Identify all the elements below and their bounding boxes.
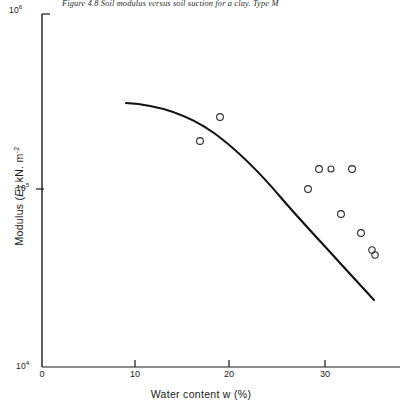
x-axis-title: Water content w (%) xyxy=(0,388,402,400)
x-axis-label-0: 0 xyxy=(32,369,52,379)
y-axis-label-1e6: 106 xyxy=(9,5,23,15)
data-point xyxy=(197,138,204,145)
x-axis-label-10: 10 xyxy=(125,369,145,379)
data-point xyxy=(316,166,323,173)
figure-root: Figure 4.8 Soil modulus versus soil suct… xyxy=(0,0,402,409)
x-axis-label-30: 30 xyxy=(315,369,335,379)
y-axis-label-1e4: 104 xyxy=(16,361,30,371)
data-point-group xyxy=(197,114,379,259)
data-point xyxy=(372,252,378,258)
y-axis-title: Modulus (E) kN. m-2 xyxy=(13,111,25,281)
plot-area xyxy=(0,0,402,409)
data-point xyxy=(338,211,345,218)
data-point xyxy=(217,114,224,121)
data-point xyxy=(358,230,365,237)
data-point xyxy=(349,166,356,173)
trend-curve xyxy=(126,103,374,300)
data-point xyxy=(328,166,334,172)
x-axis-label-20: 20 xyxy=(219,369,239,379)
data-point xyxy=(305,186,312,193)
